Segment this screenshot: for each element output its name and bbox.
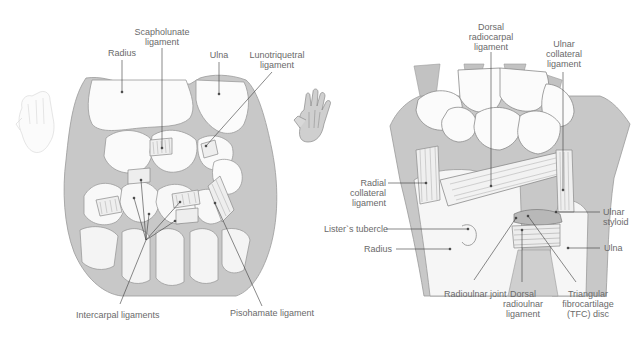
label-tfc-line2: fibrocartilage: [556, 299, 620, 309]
label-ulnar-collateral-line1: Ulnar: [544, 39, 584, 49]
label-dorsal-radiocarpal-line2: radiocarpal: [466, 32, 516, 42]
label-radius-right: Radius: [364, 244, 392, 254]
label-pisohamate-ligament: Pisohamate ligament: [230, 308, 314, 318]
label-tfc-disc: Triangular fibrocartilage (TFC) disc: [556, 289, 620, 319]
label-dorsal-radiocarpal-ligament: Dorsal radiocarpal ligament: [466, 22, 516, 52]
label-ulnar-collateral-ligament: Ulnar collateral ligament: [544, 39, 584, 69]
palmar-wrist-illustration: [64, 75, 277, 296]
label-radial-collateral-line3: ligament: [346, 198, 386, 208]
label-dorsal-radioulnar-ligament: Dorsal radioulnar ligament: [502, 289, 544, 319]
label-ulnar-collateral-line2: collateral: [544, 49, 584, 59]
label-tfc-line1: Triangular: [556, 289, 620, 299]
label-radial-collateral-ligament: Radial collateral ligament: [346, 178, 386, 208]
label-ulnar-collateral-line3: ligament: [544, 59, 584, 69]
label-scapholunate-line2: ligament: [130, 37, 194, 47]
wrist-ligament-diagram: Radius Scapholunate ligament Ulna Lunotr…: [0, 0, 644, 340]
label-dorsal-radioulnar-line3: ligament: [502, 309, 544, 319]
label-lunotriquetral-line2: ligament: [246, 60, 308, 70]
label-ulnar-styloid-line2: styloid: [603, 217, 629, 227]
label-dorsal-radioulnar-line2: radioulnar: [502, 299, 544, 309]
label-scapholunate-line1: Scapholunate: [130, 27, 194, 37]
label-ulna-right: Ulna: [604, 243, 623, 253]
label-lunotriquetral-ligament: Lunotriquetral ligament: [246, 50, 308, 70]
label-ulna-left: Ulna: [204, 50, 234, 60]
label-ulnar-styloid: Ulnar styloid: [603, 207, 629, 227]
back-of-hand-icon: [294, 89, 331, 142]
label-listers-tubercle: Lister`s tubercle: [324, 224, 388, 234]
label-dorsal-radioulnar-line1: Dorsal: [502, 289, 544, 299]
label-lunotriquetral-line1: Lunotriquetral: [246, 50, 308, 60]
label-dorsal-radiocarpal-line1: Dorsal: [466, 22, 516, 32]
label-scapholunate-ligament: Scapholunate ligament: [130, 27, 194, 47]
palm-hand-icon: [16, 91, 54, 152]
label-radioulnar-joint: Radioulnar joint: [444, 289, 507, 299]
label-intercarpal-ligaments: Intercarpal ligaments: [76, 310, 160, 320]
label-radius-left: Radius: [106, 48, 138, 58]
label-ulnar-styloid-line1: Ulnar: [603, 207, 629, 217]
label-radial-collateral-line2: collateral: [346, 188, 386, 198]
dorsal-wrist-illustration: [390, 64, 630, 296]
label-radial-collateral-line1: Radial: [346, 178, 386, 188]
label-tfc-line3: (TFC) disc: [556, 309, 620, 319]
label-dorsal-radiocarpal-line3: ligament: [466, 42, 516, 52]
